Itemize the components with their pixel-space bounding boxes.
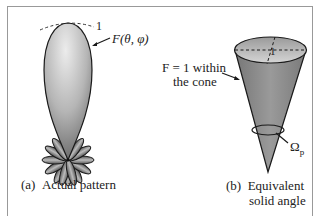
cone-top-level-label: 1	[270, 44, 276, 59]
main-lobe	[44, 23, 92, 160]
caption-b: (b) Equivalent	[226, 178, 304, 193]
caption-a-tag: (a)	[21, 177, 35, 192]
caption-b-line2: solid angle	[249, 193, 306, 208]
cone-label-line2: the cone	[173, 74, 217, 89]
omega-symbol: Ω	[290, 139, 300, 154]
cone-label-line1: F = 1 within	[162, 60, 226, 75]
unit-level-label: 1	[96, 19, 102, 34]
pattern-function-label: F(θ, φ)	[112, 31, 149, 46]
caption-a-text: Actual pattern	[42, 177, 116, 192]
caption-b-line1: Equivalent	[248, 178, 304, 193]
caption-b-tag: (b)	[226, 178, 241, 193]
omega-subscript: p	[300, 147, 305, 157]
caption-a: (a) Actual pattern	[21, 177, 116, 192]
solid-angle-label: Ωp	[290, 139, 304, 160]
